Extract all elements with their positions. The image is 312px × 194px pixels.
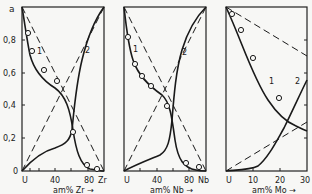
x-end-label: Zr [98, 176, 107, 185]
x-tick-label: U [124, 176, 130, 185]
curve-1 [226, 7, 307, 131]
curve-label-1: 1 [37, 47, 42, 56]
y-tick-label: 0,6 [3, 69, 16, 78]
x-tick-label: U [226, 176, 232, 185]
x-axis-title: am% Zr → [53, 186, 94, 194]
x-tick-label: U [22, 176, 28, 185]
x-tick-label: 20 [275, 176, 285, 185]
x-tick-label: 10 [248, 176, 258, 185]
y-tick-label: 0 [13, 167, 18, 176]
curve-label-1: 1 [269, 77, 274, 86]
x-tick-label: 40 [50, 176, 60, 185]
y-tick-label: 0,2 [3, 134, 16, 143]
y-tick-label: 0,8 [3, 36, 16, 45]
x-tick-label: 80 [184, 176, 194, 185]
y-tick-label: 0,4 [3, 101, 16, 110]
panel-u-zr: a 0,8 0,6 0,4 0,2 0 1 2 U 40 80 Zr am% Z… [3, 4, 107, 194]
x-tick-label: 80 [84, 176, 94, 185]
x-end-label: Nb [198, 176, 209, 185]
curve-label-2: 2 [182, 48, 187, 57]
x-tick-label: 40 [152, 176, 162, 185]
panel-u-nb: 1 2 U 40 80 Nb am% Nb → [124, 7, 209, 194]
curve-label-2: 2 [295, 77, 300, 86]
x-axis-title: am% Mo → [252, 186, 296, 194]
y-axis-label: a [9, 4, 15, 14]
ideal-line-1 [226, 7, 307, 56]
x-tick-label: 30 [300, 176, 310, 185]
ideal-line-2 [226, 122, 307, 171]
curve-label-1: 1 [133, 45, 138, 54]
curve-label-2: 2 [85, 46, 90, 55]
panel-u-mo: 1 2 U 10 20 30 am% Mo → [226, 7, 310, 194]
x-axis-title: am% Nb → [150, 186, 193, 194]
activity-chart-figure: a 0,8 0,6 0,4 0,2 0 1 2 U 40 80 Zr am% Z… [0, 0, 312, 194]
